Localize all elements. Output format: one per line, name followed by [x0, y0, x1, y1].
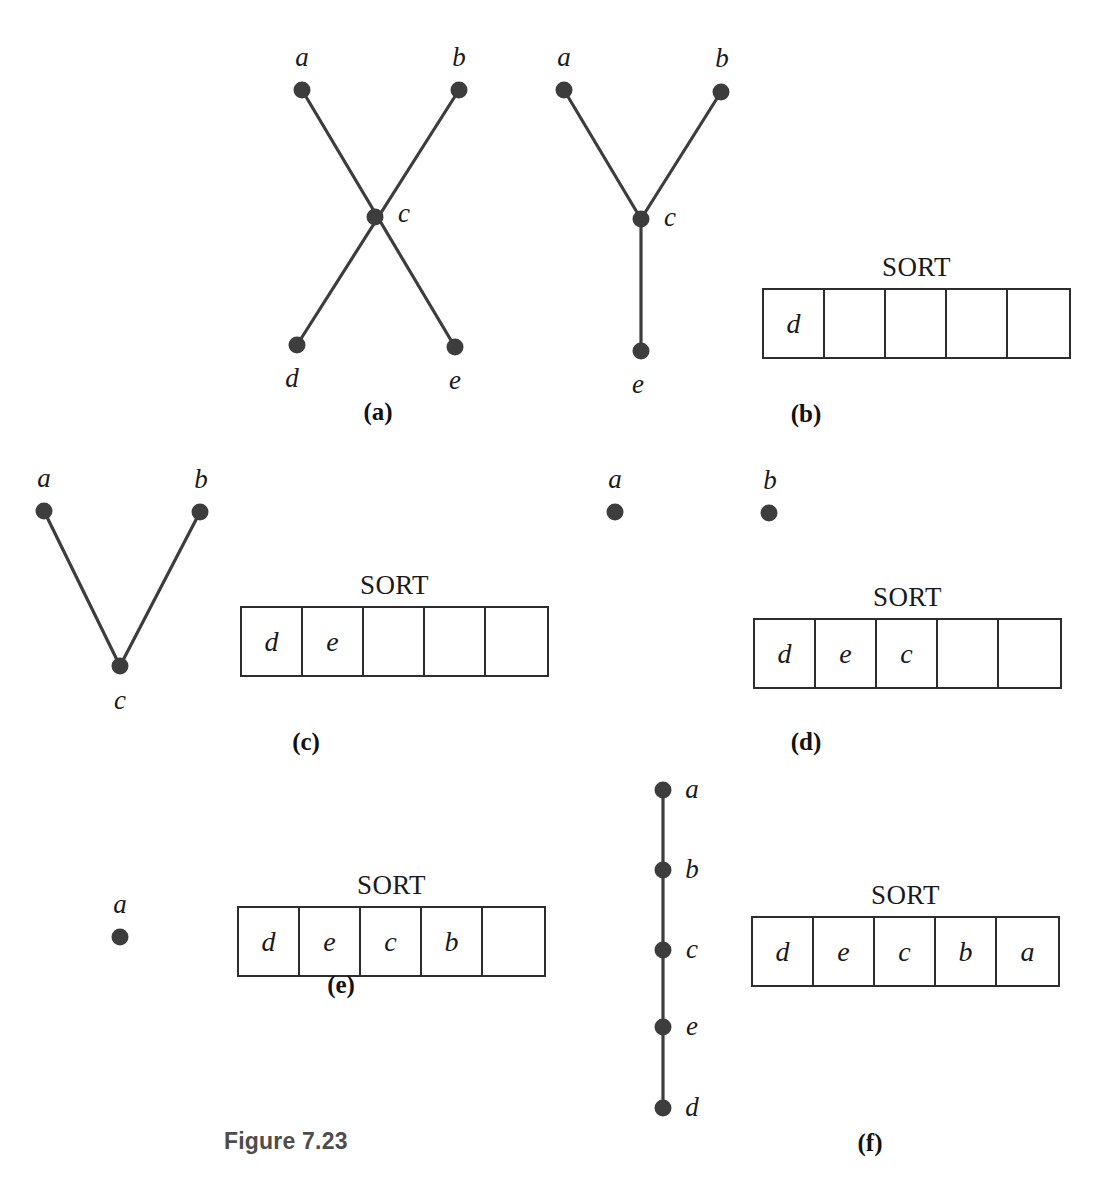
sort-cell-d-2: c — [877, 620, 938, 687]
sort-cell-b-3 — [947, 290, 1008, 357]
sort-cell-d-3 — [938, 620, 999, 687]
sort-array-title-e: SORT — [237, 872, 546, 899]
sort-array-group-c: SORTde — [240, 572, 549, 677]
panel-caption-a: (a) — [363, 398, 392, 426]
panel-caption-d: (d) — [791, 728, 822, 756]
sort-array-group-e: SORTdecb — [237, 872, 546, 977]
sort-cell-e-4 — [483, 908, 544, 975]
sort-array-e: decb — [237, 906, 546, 977]
graph-node-label-b-e: e — [632, 371, 644, 398]
graph-node-label-d-b: b — [763, 467, 777, 494]
sort-array-c: de — [240, 606, 549, 677]
graph-node-label-c-b: b — [194, 466, 208, 493]
graph-node-e-a — [112, 929, 129, 946]
sort-cell-d-1: e — [816, 620, 877, 687]
panel-caption-b: (b) — [791, 400, 822, 428]
sort-cell-f-3: b — [936, 918, 997, 985]
sort-cell-d-0: d — [755, 620, 816, 687]
graph-node-label-f-b: b — [685, 856, 699, 883]
graph-node-f-c — [655, 942, 672, 959]
sort-array-title-d: SORT — [753, 584, 1062, 611]
graph-node-d-a — [607, 504, 624, 521]
graph-node-b-b — [713, 84, 730, 101]
sort-array-title-f: SORT — [751, 882, 1060, 909]
sort-array-title-c: SORT — [240, 572, 549, 599]
sort-array-group-d: SORTdec — [753, 584, 1062, 689]
graph-node-label-a-e: e — [449, 367, 461, 394]
sort-cell-c-3 — [425, 608, 486, 675]
graph-node-label-a-a: a — [295, 44, 309, 71]
sort-cell-c-4 — [486, 608, 547, 675]
sort-cell-e-0: d — [239, 908, 300, 975]
graph-node-a-e — [447, 339, 464, 356]
sort-cell-f-2: c — [875, 918, 936, 985]
panel-caption-f: (f) — [858, 1129, 883, 1157]
graph-edge-c-b-c — [120, 512, 200, 666]
graph-node-b-e — [633, 343, 650, 360]
graph-node-label-f-d: d — [685, 1094, 699, 1121]
sort-cell-f-0: d — [753, 918, 814, 985]
graph-node-f-d — [655, 1100, 672, 1117]
sort-cell-f-4: a — [997, 918, 1058, 985]
panel-caption-c: (c) — [292, 728, 320, 756]
sort-cell-b-2 — [886, 290, 947, 357]
graph-node-label-f-c: c — [686, 936, 698, 963]
graph-node-b-c — [633, 211, 650, 228]
sort-cell-b-0: d — [764, 290, 825, 357]
graph-node-f-a — [655, 782, 672, 799]
sort-array-group-b: SORTd — [762, 254, 1071, 359]
sort-cell-c-1: e — [303, 608, 364, 675]
graph-node-a-d — [289, 337, 306, 354]
graph-node-label-b-b: b — [715, 45, 729, 72]
graph-edge-c-a-c — [44, 511, 120, 666]
panel-caption-e: (e) — [327, 971, 355, 999]
graph-node-label-c-a: a — [37, 465, 51, 492]
graph-node-label-f-e: e — [686, 1013, 698, 1040]
graph-node-b-a — [556, 82, 573, 99]
graph-node-a-b — [451, 82, 468, 99]
figure-caption: Figure 7.23 — [224, 1128, 348, 1155]
sort-cell-e-3: b — [422, 908, 483, 975]
graph-node-c-b — [192, 504, 209, 521]
graph-node-label-a-d: d — [285, 365, 299, 392]
graph-node-label-c-c: c — [114, 687, 126, 714]
sort-array-f: decba — [751, 916, 1060, 987]
sort-array-title-b: SORT — [762, 254, 1071, 281]
sort-array-group-f: SORTdecba — [751, 882, 1060, 987]
graph-node-d-b — [761, 505, 778, 522]
sort-cell-e-2: c — [361, 908, 422, 975]
graph-edge-b-a-c — [564, 90, 641, 219]
sort-cell-f-1: e — [814, 918, 875, 985]
sort-cell-c-0: d — [242, 608, 303, 675]
graph-node-label-a-b: b — [452, 44, 466, 71]
sort-cell-c-2 — [364, 608, 425, 675]
sort-cell-b-1 — [825, 290, 886, 357]
graph-node-c-a — [36, 503, 53, 520]
graph-node-label-a-c: c — [398, 200, 410, 227]
graph-node-a-c — [367, 209, 384, 226]
graph-node-f-e — [655, 1019, 672, 1036]
sort-cell-e-1: e — [300, 908, 361, 975]
graph-node-label-b-a: a — [557, 44, 571, 71]
graph-node-label-f-a: a — [685, 776, 699, 803]
graph-node-a-a — [294, 82, 311, 99]
graph-node-label-e-a: a — [113, 891, 127, 918]
figure-7-23: abcdeabceabcabaabced SORTdSORTdeSORTdecS… — [0, 0, 1106, 1198]
graph-node-label-d-a: a — [608, 466, 622, 493]
sort-array-b: d — [762, 288, 1071, 359]
graph-node-f-b — [655, 862, 672, 879]
graph-node-c-c — [112, 658, 129, 675]
sort-array-d: dec — [753, 618, 1062, 689]
sort-cell-b-4 — [1008, 290, 1069, 357]
graph-node-label-b-c: c — [664, 204, 676, 231]
graph-edge-b-b-c — [641, 92, 721, 219]
sort-cell-d-4 — [999, 620, 1060, 687]
